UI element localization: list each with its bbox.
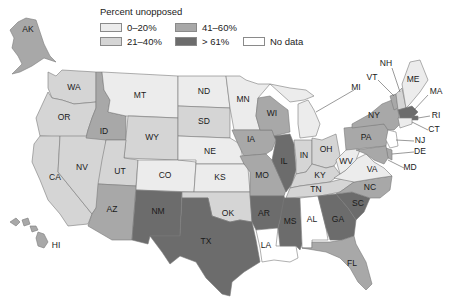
legend-item-no-data: No data bbox=[243, 36, 303, 47]
state-label-WY: WY bbox=[145, 132, 159, 142]
state-label-TN: TN bbox=[310, 184, 321, 194]
state-label-MA: MA bbox=[430, 86, 443, 96]
state-label-AK: AK bbox=[22, 24, 34, 34]
legend-swatch bbox=[100, 37, 122, 46]
state-label-MT: MT bbox=[134, 90, 146, 100]
legend-item-41-60: 41–60% bbox=[175, 22, 237, 33]
state-label-MO: MO bbox=[255, 170, 269, 180]
state-label-MS: MS bbox=[284, 216, 297, 226]
state-RI[interactable] bbox=[412, 116, 418, 120]
legend-label: 0–20% bbox=[127, 22, 157, 33]
legend-swatch bbox=[175, 23, 197, 32]
state-label-WA: WA bbox=[67, 82, 81, 92]
state-label-IN: IN bbox=[300, 150, 309, 160]
state-label-CT: CT bbox=[428, 124, 439, 134]
legend-item-21-40: 21–40% bbox=[100, 36, 162, 47]
state-label-RI: RI bbox=[432, 110, 441, 120]
state-HI[interactable] bbox=[10, 218, 48, 248]
state-CT[interactable] bbox=[398, 118, 412, 128]
state-label-IA: IA bbox=[247, 134, 255, 144]
state-label-TX: TX bbox=[201, 236, 212, 246]
state-label-VA: VA bbox=[367, 164, 378, 174]
state-label-WI: WI bbox=[267, 108, 277, 118]
state-label-NM: NM bbox=[151, 206, 164, 216]
state-label-OR: OR bbox=[58, 112, 71, 122]
state-label-MI: MI bbox=[351, 82, 360, 92]
state-label-PA: PA bbox=[361, 132, 372, 142]
state-label-NV: NV bbox=[76, 162, 88, 172]
legend-swatch bbox=[243, 37, 265, 46]
state-label-DE: DE bbox=[414, 146, 426, 156]
state-label-FL: FL bbox=[347, 258, 357, 268]
state-label-OK: OK bbox=[222, 208, 235, 218]
state-label-AR: AR bbox=[258, 208, 270, 218]
state-label-VT: VT bbox=[367, 72, 378, 82]
state-label-GA: GA bbox=[332, 214, 345, 224]
legend-label: 41–60% bbox=[202, 22, 237, 33]
state-label-MN: MN bbox=[236, 94, 249, 104]
legend-item-0-20: 0–20% bbox=[100, 22, 157, 33]
state-label-LA: LA bbox=[261, 240, 272, 250]
state-label-KY: KY bbox=[314, 170, 326, 180]
state-label-CO: CO bbox=[159, 170, 172, 180]
state-label-ME: ME bbox=[407, 74, 420, 84]
legend-label: > 61% bbox=[202, 36, 229, 47]
state-FL[interactable] bbox=[302, 236, 372, 290]
state-label-HI: HI bbox=[52, 240, 61, 250]
state-label-AZ: AZ bbox=[107, 204, 118, 214]
legend-title: Percent unopposed bbox=[100, 6, 182, 17]
state-label-UT: UT bbox=[114, 166, 125, 176]
state-label-IL: IL bbox=[280, 156, 287, 166]
state-NJ[interactable] bbox=[386, 130, 398, 148]
state-label-NJ: NJ bbox=[415, 135, 425, 145]
legend-label: No data bbox=[270, 36, 303, 47]
legend-item-over-61: > 61% bbox=[175, 36, 229, 47]
state-label-NH: NH bbox=[380, 58, 392, 68]
state-label-WV: WV bbox=[339, 156, 353, 166]
state-label-SC: SC bbox=[352, 198, 364, 208]
state-label-AL: AL bbox=[307, 214, 318, 224]
legend-swatch bbox=[175, 37, 197, 46]
state-label-NC: NC bbox=[364, 182, 376, 192]
legend-swatch bbox=[100, 23, 122, 32]
state-label-MD: MD bbox=[403, 162, 416, 172]
state-label-NE: NE bbox=[204, 146, 216, 156]
state-label-ND: ND bbox=[198, 86, 210, 96]
legend-label: 21–40% bbox=[127, 36, 162, 47]
state-label-NY: NY bbox=[368, 110, 380, 120]
state-label-ID: ID bbox=[100, 126, 109, 136]
state-label-CA: CA bbox=[49, 172, 61, 182]
state-label-OH: OH bbox=[320, 144, 333, 154]
state-label-SD: SD bbox=[198, 116, 210, 126]
state-label-KS: KS bbox=[214, 172, 226, 182]
